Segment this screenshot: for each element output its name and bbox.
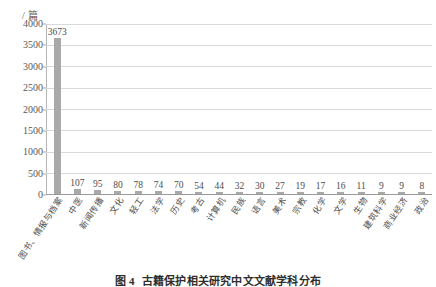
x-axis-category-label: 历史 [169,196,187,216]
bar-value-label: 80 [113,180,123,190]
y-axis-tick-mark [43,66,46,67]
bar[interactable]: 32 [236,192,243,194]
x-axis-category-label: 考古 [189,196,207,216]
bar-value-label: 16 [336,181,346,191]
y-axis-tick-mark [43,45,46,46]
y-axis-tick-label: 0 [38,190,43,200]
y-axis-tick-mark [43,152,46,153]
bar[interactable]: 19 [297,192,304,194]
bar[interactable]: 74 [155,191,162,194]
bar[interactable]: 9 [398,192,405,194]
bar-value-label: 54 [194,181,204,191]
x-label-slot: 化学 [311,196,331,266]
bar-slot: 44 [209,24,229,194]
bar-slot: 107 [67,24,87,194]
y-axis-tick-label: 3500 [23,40,43,50]
bar-slot: 95 [88,24,108,194]
x-axis-category-label: 图书、情报与档案 [17,196,65,261]
bar-value-label: 70 [174,180,184,190]
bar[interactable]: 30 [256,192,263,194]
bar-value-label: 17 [316,181,326,191]
x-axis-category-label: 文化 [108,196,126,216]
bar[interactable]: 17 [317,192,324,194]
bar-value-label: 95 [93,179,103,189]
bar[interactable]: 44 [216,192,223,194]
bar[interactable]: 16 [337,192,344,194]
y-axis-tick-label: 1500 [23,126,43,136]
bar-slot: 11 [351,24,371,194]
bar-slot: 8 [412,24,432,194]
x-axis-category-label: 民族 [230,196,248,216]
y-axis-tick-mark [43,109,46,110]
bar-slot: 27 [270,24,290,194]
bar-value-label: 3673 [48,27,67,37]
x-label-slot: 轻工 [128,196,148,266]
x-label-slot: 文化 [108,196,128,266]
x-label-slot: 政治 [413,196,433,266]
bar-slot: 9 [392,24,412,194]
x-label-slot: 历史 [169,196,189,266]
bar-slot: 70 [169,24,189,194]
y-axis-tick-label: 500 [28,169,43,179]
x-axis-category-label: 宗教 [291,196,309,216]
x-label-slot: 图书、情报与档案 [47,196,67,266]
x-axis-category-label: 语言 [250,196,268,216]
bar-value-label: 78 [133,180,143,190]
bar-value-label: 32 [235,181,245,191]
bar-series: 36731079580787470544432302719171611998 [47,24,432,194]
y-axis-tick-mark [43,173,46,174]
bar[interactable]: 78 [135,191,142,194]
bar[interactable]: 107 [74,189,81,194]
figure-container: / 篇 40003500300025002000150010005000 367… [0,0,436,287]
figure-caption-text: 古籍保护相关研究中文文献学科分布 [142,275,321,287]
x-label-slot: 美术 [270,196,290,266]
bar-slot: 74 [148,24,168,194]
bar-slot: 17 [310,24,330,194]
x-label-slot: 宗教 [291,196,311,266]
x-label-slot: 考古 [189,196,209,266]
x-label-slot: 商业经济 [392,196,412,266]
bar[interactable]: 95 [94,190,101,194]
bar-value-label: 9 [379,181,384,191]
x-axis-category-label: 中医 [67,196,85,216]
bar[interactable]: 9 [378,192,385,194]
bar-slot: 54 [189,24,209,194]
x-label-slot: 建筑科学 [372,196,392,266]
x-label-slot: 法学 [149,196,169,266]
bar[interactable]: 70 [175,191,182,194]
bar[interactable]: 8 [418,192,425,194]
figure-caption: 图 4古籍保护相关研究中文文献学科分布 [0,272,436,287]
x-axis-category-label: 政治 [413,196,431,216]
x-axis-category-label: 生物 [352,196,370,216]
y-axis-tick-mark [43,24,46,25]
y-axis-tick-label: 1000 [23,147,43,157]
bar-slot: 32 [229,24,249,194]
bar-slot: 80 [108,24,128,194]
bar[interactable]: 80 [114,191,121,194]
bar-value-label: 107 [70,178,84,188]
x-axis-category-label: 化学 [311,196,329,216]
x-label-slot: 民族 [230,196,250,266]
bar[interactable]: 54 [195,192,202,194]
y-axis-tick-mark [43,88,46,89]
bar[interactable]: 11 [358,192,365,194]
x-axis-category-label: 文学 [331,196,349,216]
y-axis-tick-label: 3000 [23,62,43,72]
y-axis-tick-mark [43,195,46,196]
bar-value-label: 44 [215,181,225,191]
bar-value-label: 8 [420,181,425,191]
bar-value-label: 11 [357,181,366,191]
y-axis-tick-label: 2500 [23,83,43,93]
bar[interactable]: 3673 [54,38,61,194]
bar-slot: 16 [331,24,351,194]
bar-slot: 9 [371,24,391,194]
bar-value-label: 27 [275,181,285,191]
y-axis-tick-label: 4000 [23,19,43,29]
y-axis-tick-mark [43,130,46,131]
bar-slot: 30 [250,24,270,194]
bar-slot: 19 [290,24,310,194]
bar[interactable]: 27 [277,192,284,194]
bar-slot: 3673 [47,24,67,194]
bar-value-label: 30 [255,181,265,191]
figure-caption-number: 图 4 [115,275,135,287]
